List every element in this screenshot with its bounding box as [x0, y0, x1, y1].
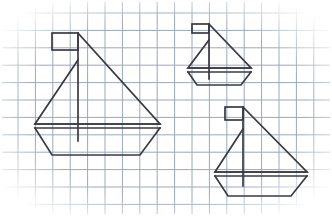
sailboats-figure — [0, 0, 332, 216]
drawing-canvas — [0, 0, 332, 216]
page-background — [0, 0, 332, 216]
